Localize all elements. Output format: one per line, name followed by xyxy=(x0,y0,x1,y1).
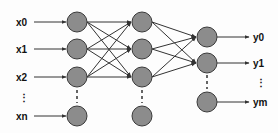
nodes xyxy=(67,12,217,126)
output-label-y1: y1 xyxy=(253,58,265,69)
output-layer-node-0 xyxy=(197,27,217,47)
input-layer-node-1 xyxy=(67,39,87,59)
input-label-x1: x1 xyxy=(16,44,28,55)
input-label-x0: x0 xyxy=(16,17,28,28)
edge-l1-2-l2-1 xyxy=(152,63,196,77)
input-layer-node-2 xyxy=(67,67,87,87)
hidden-layer-node-3 xyxy=(132,106,152,126)
output-ellipsis: ⋮ xyxy=(256,77,266,88)
input-layer-node-0 xyxy=(67,12,87,32)
edge-l1-0-l2-0 xyxy=(152,22,196,37)
hidden-layer-node-2 xyxy=(132,67,152,87)
input-layer-node-3 xyxy=(67,106,87,126)
output-label-y0: y0 xyxy=(253,32,265,43)
hidden-layer-node-1 xyxy=(132,39,152,59)
input-label-xn: xn xyxy=(16,111,28,122)
hidden-layer-node-0 xyxy=(132,12,152,32)
input-label-x2: x2 xyxy=(16,72,28,83)
input-ellipsis: ⋮ xyxy=(19,92,29,103)
output-layer-node-1 xyxy=(197,53,217,73)
diagram-svg: x0 x1 x2 ⋮ xn y0 y1 ⋮ ym xyxy=(0,0,278,133)
neural-network-diagram: x0 x1 x2 ⋮ xn y0 y1 ⋮ ym xyxy=(0,0,278,133)
edge-l1-1-l2-1 xyxy=(152,49,196,63)
output-layer-node-2 xyxy=(197,92,217,112)
output-label-ym: ym xyxy=(253,97,268,108)
